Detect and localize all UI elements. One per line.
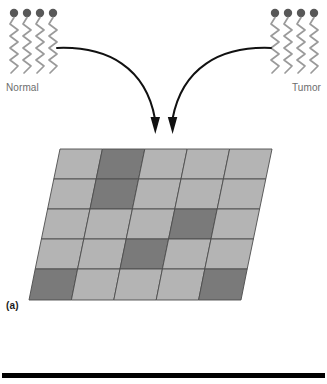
array-cell[interactable] xyxy=(120,239,169,269)
array-cell[interactable] xyxy=(29,269,78,300)
array-cell[interactable] xyxy=(175,179,224,209)
microarray-grid xyxy=(0,0,327,384)
array-cell[interactable] xyxy=(156,269,205,300)
array-cell[interactable] xyxy=(90,179,139,209)
array-cell[interactable] xyxy=(114,269,163,300)
array-cell[interactable] xyxy=(211,209,260,239)
figure-root: Normal Tumor xyxy=(0,0,327,384)
array-cell[interactable] xyxy=(48,179,97,209)
array-cell[interactable] xyxy=(84,209,133,239)
array-cell[interactable] xyxy=(139,149,188,179)
array-cell[interactable] xyxy=(169,209,218,239)
bottom-rule xyxy=(2,373,325,378)
array-cell[interactable] xyxy=(41,209,90,239)
array-cell[interactable] xyxy=(35,239,84,269)
array-cell[interactable] xyxy=(199,269,248,300)
array-cell[interactable] xyxy=(181,149,230,179)
array-cell[interactable] xyxy=(223,149,272,179)
array-cell[interactable] xyxy=(126,209,175,239)
array-cell[interactable] xyxy=(71,269,120,300)
panel-label: (a) xyxy=(6,300,19,311)
array-cell[interactable] xyxy=(54,149,103,179)
array-cell[interactable] xyxy=(96,149,145,179)
array-cell[interactable] xyxy=(132,179,181,209)
array-cell[interactable] xyxy=(162,239,211,269)
array-cell[interactable] xyxy=(78,239,127,269)
array-cell[interactable] xyxy=(205,239,254,269)
array-cell[interactable] xyxy=(217,179,266,209)
